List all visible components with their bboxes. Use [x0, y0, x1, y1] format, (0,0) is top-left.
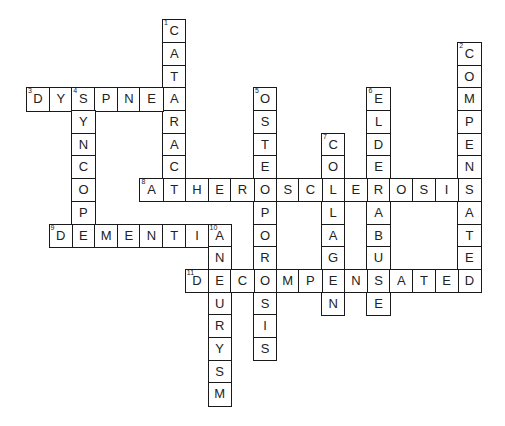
crossword-cell[interactable]: R [208, 314, 232, 338]
crossword-cell[interactable]: T [457, 224, 481, 248]
crossword-cell[interactable]: M [208, 382, 232, 406]
crossword-cell[interactable]: E [208, 269, 232, 293]
crossword-cell[interactable]: M [276, 269, 300, 293]
crossword-cell[interactable]: 8A [139, 178, 163, 202]
crossword-cell[interactable]: A [389, 269, 413, 293]
crossword-cell[interactable]: D [366, 133, 390, 157]
crossword-cell[interactable]: N [208, 246, 232, 270]
crossword-cell[interactable]: E [208, 178, 232, 202]
crossword-cell[interactable]: S [276, 178, 300, 202]
cell-letter: R [231, 183, 253, 197]
crossword-cell[interactable]: E [435, 269, 459, 293]
crossword-cell[interactable]: O [253, 224, 277, 248]
crossword-cell[interactable]: R [253, 246, 277, 270]
crossword-cell[interactable]: S [253, 110, 277, 134]
crossword-cell[interactable]: M [457, 87, 481, 111]
crossword-cell[interactable]: C [230, 269, 254, 293]
cell-letter: C [299, 183, 321, 197]
crossword-cell[interactable]: A [366, 201, 390, 225]
crossword-cell[interactable]: O [321, 155, 345, 179]
crossword-cell[interactable]: E [366, 292, 390, 316]
crossword-cell[interactable]: P [457, 110, 481, 134]
crossword-cell[interactable]: N [71, 133, 95, 157]
crossword-cell[interactable]: U [208, 292, 232, 316]
crossword-cell[interactable]: Y [49, 87, 73, 111]
crossword-cell[interactable]: M [94, 224, 118, 248]
crossword-cell[interactable]: A [457, 201, 481, 225]
crossword-cell[interactable]: E [344, 178, 368, 202]
crossword-cell[interactable]: N [457, 155, 481, 179]
crossword-cell[interactable]: N [321, 292, 345, 316]
crossword-cell[interactable]: E [321, 269, 345, 293]
crossword-cell[interactable]: C [298, 178, 322, 202]
crossword-cell[interactable]: 2C [457, 42, 481, 66]
crossword-cell[interactable]: E [457, 133, 481, 157]
crossword-cell[interactable]: P [298, 269, 322, 293]
crossword-cell[interactable]: L [321, 201, 345, 225]
crossword-cell[interactable]: T [162, 178, 186, 202]
crossword-cell[interactable]: A [162, 42, 186, 66]
crossword-cell[interactable]: R [230, 178, 254, 202]
crossword-cell[interactable]: C [162, 155, 186, 179]
crossword-cell[interactable]: D [457, 269, 481, 293]
crossword-cell[interactable]: N [117, 87, 141, 111]
crossword-cell[interactable]: I [185, 224, 209, 248]
crossword-cell[interactable]: 3D [26, 87, 50, 111]
crossword-cell[interactable]: E [117, 224, 141, 248]
crossword-cell[interactable]: S [412, 178, 436, 202]
crossword-cell[interactable]: 6E [366, 87, 390, 111]
crossword-cell[interactable]: T [253, 133, 277, 157]
crossword-cell[interactable]: R [162, 110, 186, 134]
crossword-cell[interactable]: C [71, 155, 95, 179]
crossword-cell[interactable]: S [366, 269, 390, 293]
crossword-cell[interactable]: L [366, 110, 390, 134]
crossword-cell[interactable]: A [162, 133, 186, 157]
crossword-cell[interactable]: A [321, 224, 345, 248]
crossword-cell[interactable]: O [457, 65, 481, 89]
crossword-cell[interactable]: O [253, 269, 277, 293]
crossword-cell[interactable]: E [253, 155, 277, 179]
crossword-cell[interactable]: P [71, 201, 95, 225]
crossword-cell[interactable]: I [435, 178, 459, 202]
crossword-cell[interactable]: 10A [208, 224, 232, 248]
crossword-cell[interactable]: P [94, 87, 118, 111]
crossword-cell[interactable]: E [457, 246, 481, 270]
crossword-cell[interactable]: I [253, 314, 277, 338]
crossword-cell[interactable]: T [162, 224, 186, 248]
crossword-cell[interactable]: Y [208, 337, 232, 361]
crossword-cell[interactable]: E [366, 155, 390, 179]
crossword-cell[interactable]: E [71, 224, 95, 248]
crossword-cell[interactable]: N [344, 269, 368, 293]
crossword-cell[interactable]: Y [71, 110, 95, 134]
crossword-cell[interactable]: S [253, 292, 277, 316]
crossword-cell[interactable]: 1C [162, 19, 186, 43]
crossword-cell[interactable]: B [366, 224, 390, 248]
crossword-cell[interactable]: G [321, 246, 345, 270]
crossword-cell[interactable]: 4S [71, 87, 95, 111]
crossword-cell[interactable]: S [457, 178, 481, 202]
crossword-cell[interactable]: 9D [49, 224, 73, 248]
crossword-cell[interactable]: U [366, 246, 390, 270]
crossword-cell[interactable]: N [139, 224, 163, 248]
crossword-cell[interactable]: O [71, 178, 95, 202]
crossword-cell[interactable]: R [366, 178, 390, 202]
crossword-cell[interactable]: H [185, 178, 209, 202]
crossword-cell[interactable]: S [208, 360, 232, 384]
crossword-cell[interactable]: P [253, 201, 277, 225]
crossword-cell[interactable]: A [162, 87, 186, 111]
crossword-cell[interactable]: E [139, 87, 163, 111]
crossword-cell[interactable]: 11D [185, 269, 209, 293]
crossword-cell[interactable]: T [162, 65, 186, 89]
crossword-cell[interactable]: L [321, 178, 345, 202]
cell-letter: R [254, 251, 276, 265]
crossword-cell[interactable]: T [412, 269, 436, 293]
cell-letter: M [458, 92, 480, 106]
cell-letter: O [254, 183, 276, 197]
cell-letter: O [254, 229, 276, 243]
crossword-cell[interactable]: O [389, 178, 413, 202]
crossword-cell[interactable]: S [253, 337, 277, 361]
crossword-cell[interactable]: 7C [321, 133, 345, 157]
crossword-cell[interactable]: O [253, 178, 277, 202]
cell-letter: P [72, 206, 94, 220]
crossword-cell[interactable]: 5O [253, 87, 277, 111]
